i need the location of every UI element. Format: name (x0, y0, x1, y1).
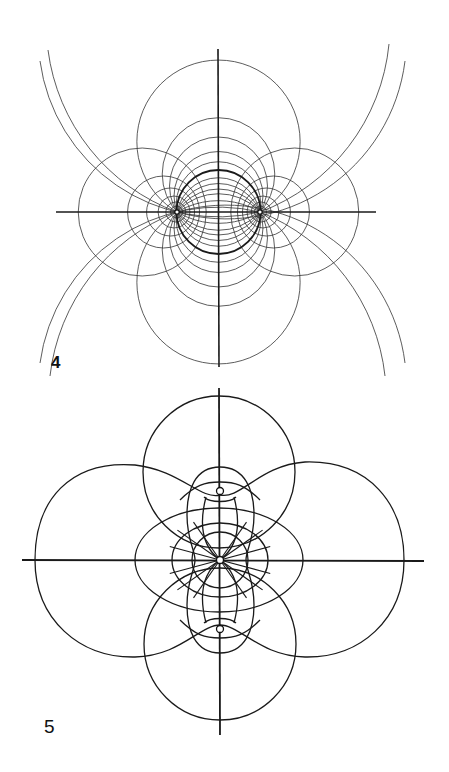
figure-5-diagram (22, 388, 424, 735)
radial-field-line (177, 560, 220, 590)
right-charge-icon (258, 210, 262, 214)
leaf-arc (260, 212, 385, 376)
figure-canvas (0, 0, 449, 772)
leaf-arc (40, 61, 260, 217)
leaf-arc (50, 212, 177, 376)
left-charge-icon (175, 210, 179, 214)
top-charge-icon (217, 488, 224, 495)
radial-field-line (220, 560, 263, 590)
leaf-arc (48, 50, 177, 212)
radial-field-line (177, 530, 220, 560)
vertical-axis (218, 49, 219, 367)
bottom-charge-icon (217, 626, 224, 633)
figure-5-label: 5 (44, 717, 55, 736)
center-charge-icon (217, 557, 224, 564)
figure-4-axes (56, 49, 376, 367)
radial-field-line (220, 530, 263, 560)
leaf-arc (40, 207, 260, 363)
leaf-arc (177, 61, 405, 219)
figure-4-diagram (40, 44, 405, 376)
leaf-arc (177, 205, 405, 363)
leaf-arc (260, 44, 389, 212)
figure-4-label: 4 (51, 354, 60, 371)
